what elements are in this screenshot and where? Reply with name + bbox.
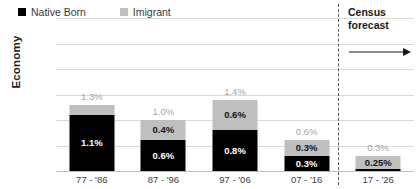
x-axis-category-label: 17 - '26 [346, 174, 411, 185]
bar-total-label: 0.3% [367, 142, 389, 153]
census-forecast-line2: forecast [348, 19, 414, 32]
x-axis-labels: 77 - '8687 - '9697 - '0607 - '1617 - '26 [56, 174, 414, 189]
gridline [56, 171, 414, 172]
legend-item-immigrant[interactable]: Imigrant [120, 6, 171, 18]
bar-segment-native[interactable]: 0.3% [284, 156, 329, 171]
x-axis-category-label: 87 - '96 [131, 174, 196, 185]
bar-segment-immigrant[interactable]: 0.25% [356, 156, 401, 169]
forecast-divider-line [338, 4, 339, 185]
bar-total-label: 0.6% [296, 126, 318, 137]
legend-item-native-born[interactable]: Native Born [18, 6, 86, 18]
plot-area: 3.0%2.5%2.0%1.5%1.0%0.5%0.0% 0.2%1.1%1.3… [56, 18, 414, 171]
bar-group[interactable]: 0.4%0.6%1.0% [131, 18, 196, 171]
bar-segment-immigrant[interactable]: 0.6% [213, 100, 258, 131]
legend-label-immigrant: Imigrant [133, 6, 171, 18]
bar-total-label: 1.3% [81, 91, 103, 102]
bar-group[interactable]: 0.3%0.3%0.6% [274, 18, 339, 171]
bar-group[interactable]: 0.6%0.8%1.4% [203, 18, 268, 171]
bar-total-label: 1.0% [153, 106, 175, 117]
forecast-arrow-icon [349, 47, 411, 57]
bar-segment-value-label: 0.6% [153, 151, 175, 161]
bar-segment-value-label: 0.6% [224, 110, 246, 120]
bar-series-container: 0.2%1.1%1.3%0.4%0.6%1.0%0.6%0.8%1.4%0.3%… [56, 18, 414, 171]
bar-stack: 0.6%0.8% [213, 100, 258, 171]
bar-segment-native[interactable]: 0.8% [213, 130, 258, 171]
bar-segment-native[interactable]: 0.04% [356, 169, 401, 171]
bar-segment-value-label: 0.4% [153, 125, 175, 135]
chart-legend: Native Born Imigrant [18, 6, 171, 18]
bar-stack: 0.3%0.3% [284, 140, 329, 171]
x-axis-category-label: 77 - '86 [59, 174, 124, 185]
bar-stack: 0.2%1.1% [69, 105, 114, 171]
bar-stack: 0.4%0.6% [141, 120, 186, 171]
census-forecast-line1: Census [348, 6, 414, 19]
bar-stack: 0.25%0.04% [356, 156, 401, 171]
economy-growth-stacked-bar-chart: Economy 3.0%2.5%2.0%1.5%1.0%0.5%0.0% 0.2… [0, 0, 417, 189]
census-forecast-annotation: Census forecast [348, 6, 414, 33]
bar-segment-value-label: 0.8% [224, 146, 246, 156]
bar-segment-value-label: 1.1% [81, 138, 103, 148]
bar-segment-value-label: 0.25% [365, 158, 392, 168]
bar-segment-immigrant[interactable]: 0.3% [284, 140, 329, 155]
legend-label-native-born: Native Born [31, 6, 86, 18]
x-axis-category-label: 97 - '06 [203, 174, 268, 185]
bar-segment-value-label: 0.3% [296, 159, 318, 169]
y-axis-title: Economy [10, 20, 22, 104]
x-axis-category-label: 07 - '16 [274, 174, 339, 185]
bar-total-label: 1.4% [224, 86, 246, 97]
bar-segment-immigrant[interactable]: 0.2% [69, 105, 114, 115]
bar-group[interactable]: 0.25%0.04%0.3% [346, 18, 411, 171]
gray-square-icon [120, 8, 128, 16]
bar-segment-value-label: 0.3% [296, 143, 318, 153]
bar-segment-immigrant[interactable]: 0.4% [141, 120, 186, 140]
black-square-icon [18, 8, 26, 16]
bar-group[interactable]: 0.2%1.1%1.3% [59, 18, 124, 171]
bar-segment-native[interactable]: 1.1% [69, 115, 114, 171]
bar-segment-native[interactable]: 0.6% [141, 140, 186, 171]
